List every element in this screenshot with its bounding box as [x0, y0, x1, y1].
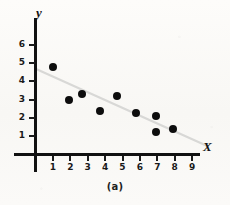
y-axis-tick [29, 135, 35, 137]
x-axis-tick [139, 156, 141, 161]
y-axis-tick-label: 4 [14, 76, 25, 85]
data-point [152, 112, 160, 120]
x-axis [14, 153, 200, 156]
x-axis-tick-label: 9 [186, 163, 198, 172]
x-axis-tick-label: 6 [134, 163, 146, 172]
data-point [65, 96, 73, 104]
x-axis-tick [104, 156, 106, 161]
x-axis-tick-label: 7 [151, 163, 163, 172]
y-axis-tick [29, 62, 35, 64]
y-axis-tick-label: 5 [14, 58, 25, 67]
x-axis-tick-label: 1 [47, 163, 59, 172]
y-axis-tick-label: 3 [14, 95, 25, 104]
x-axis-tick-label: 5 [117, 163, 129, 172]
x-axis-tick-label: 8 [169, 163, 181, 172]
y-axis-tick [29, 99, 35, 101]
x-axis-tick [191, 156, 193, 161]
x-axis-tick [52, 156, 54, 161]
x-axis-tick [174, 156, 176, 161]
x-axis-tick [87, 156, 89, 161]
data-point [169, 125, 177, 133]
y-axis-tick [29, 117, 35, 119]
x-axis-tick-label: 4 [99, 163, 111, 172]
x-axis-tick [156, 156, 158, 161]
data-point [49, 63, 57, 71]
y-axis-tick-label: 2 [14, 113, 25, 122]
figure-scatter-plot: y X 123456789123456 (a) [0, 0, 230, 205]
y-axis-tick-label: 6 [14, 40, 25, 49]
x-axis-tick-label: 3 [82, 163, 94, 172]
x-axis-tick [69, 156, 71, 161]
y-axis [34, 18, 37, 172]
x-axis-title: X [203, 140, 212, 153]
x-axis-tick-label: 2 [64, 163, 76, 172]
figure-caption: (a) [0, 181, 230, 192]
y-axis-tick [29, 44, 35, 46]
data-point [152, 128, 160, 136]
x-axis-tick [122, 156, 124, 161]
plot-area: y X 123456789123456 [0, 0, 230, 205]
y-axis-tick [29, 80, 35, 82]
y-axis-title: y [36, 6, 42, 19]
y-axis-tick-label: 1 [14, 131, 25, 140]
